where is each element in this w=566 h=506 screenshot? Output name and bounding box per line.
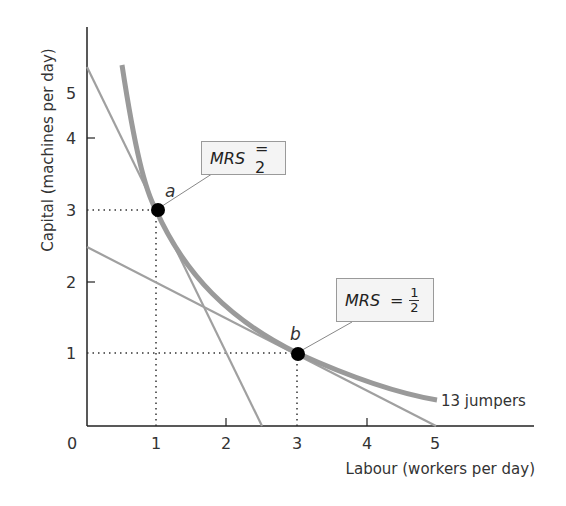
leader-line-b — [297, 322, 352, 353]
y-tick-label-4: 4 — [66, 129, 76, 148]
y-tick-label-3: 3 — [66, 201, 76, 220]
mrs-b-callout: MRS = 1 2 — [336, 278, 434, 322]
mrs-a-value: = 2 — [255, 139, 277, 177]
tangent-line-b — [87, 247, 436, 426]
mrs-b-numerator: 1 — [410, 286, 418, 300]
y-axis-label: Capital (machines per day) — [39, 48, 57, 251]
point-a-label: a — [165, 181, 175, 201]
mrs-b-denominator: 2 — [410, 301, 418, 315]
curve-label: 13 jumpers — [441, 392, 526, 410]
x-tick-label-5: 5 — [430, 434, 440, 453]
indifference-curve — [122, 65, 437, 400]
point-a — [151, 203, 165, 217]
y-tick-label-2: 2 — [66, 273, 76, 292]
mrs-a-prefix: MRS — [210, 149, 245, 168]
x-tick-label-4: 4 — [362, 434, 372, 453]
x-tick-label-3: 3 — [292, 434, 302, 453]
chart-svg: a b 5 4 3 2 1 0 1 2 3 4 5 Labour (worker… — [0, 0, 566, 506]
x-axis-label: Labour (workers per day) — [346, 460, 535, 478]
mrs-b-prefix: MRS — [345, 291, 380, 310]
x-tick-label-2: 2 — [221, 434, 231, 453]
mrs-b-equals: = — [390, 291, 403, 310]
point-b — [291, 347, 305, 361]
y-tick-label-5: 5 — [66, 84, 76, 103]
x-tick-label-0: 0 — [67, 434, 77, 453]
chart-container: a b 5 4 3 2 1 0 1 2 3 4 5 Labour (worker… — [0, 0, 566, 506]
point-b-label: b — [290, 324, 301, 344]
mrs-a-callout: MRS = 2 — [201, 141, 286, 175]
y-tick-label-1: 1 — [66, 344, 76, 363]
x-tick-label-1: 1 — [151, 434, 161, 453]
mrs-b-fraction: 1 2 — [409, 286, 419, 315]
